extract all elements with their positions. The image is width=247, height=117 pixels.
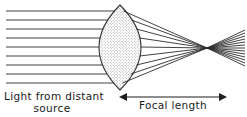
source-label-line1: Light from distant bbox=[4, 90, 104, 102]
focal-length-arrowhead-right bbox=[219, 93, 227, 101]
biconvex-lens bbox=[99, 5, 141, 90]
converging-ray bbox=[141, 47, 207, 48]
converging-ray bbox=[131, 48, 207, 74]
source-label-line2: source bbox=[34, 102, 71, 114]
converging-ray bbox=[132, 20, 208, 48]
diverging-rays bbox=[207, 30, 245, 66]
focal-length-label: Focal length bbox=[139, 99, 207, 111]
diagram-canvas: Light from distant source Focal length bbox=[0, 0, 247, 117]
focal-length-arrowhead-left bbox=[119, 93, 127, 101]
optics-lens-diagram: Light from distant source Focal length bbox=[0, 0, 247, 117]
converging-ray bbox=[140, 38, 207, 48]
converging-ray bbox=[137, 29, 208, 48]
